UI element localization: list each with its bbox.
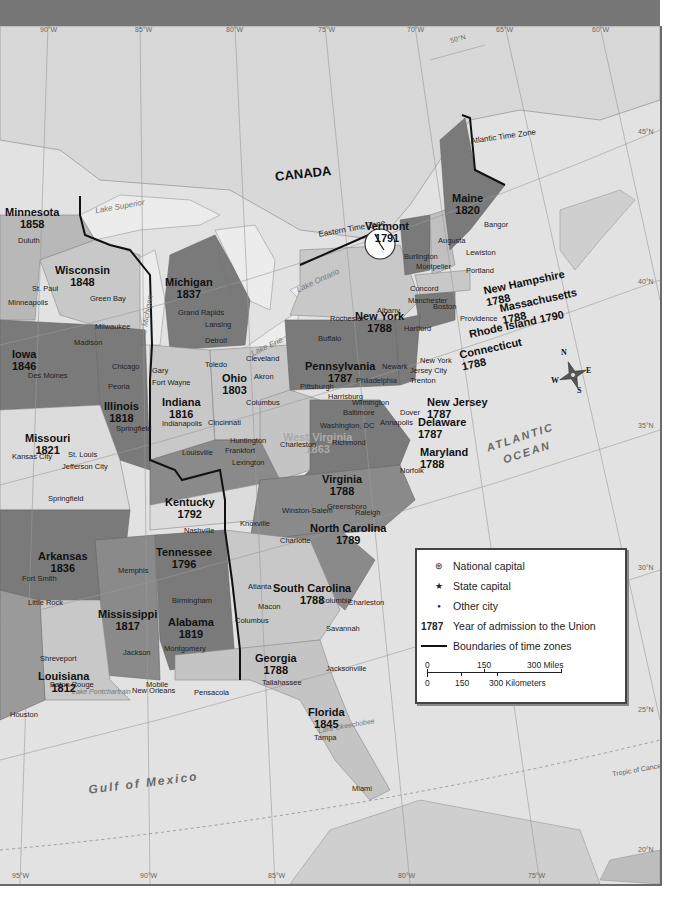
city-label: Jacksonville [326,664,366,673]
city-label: Concord [410,284,438,293]
map-header-bar [0,0,660,26]
grid-lon-bottom: 85°W [268,872,285,879]
state-label: Michigan1837 [165,276,213,300]
legend-label: Year of admission to the Union [453,620,596,632]
city-label: Trenton [410,376,436,385]
grid-lon-top: 85°W [135,26,152,33]
national-capital-icon: ⊛ [425,561,453,571]
scale-bar: 0 150 300 Miles 0 150 300 Kilometers [427,660,607,696]
city-label: Springfield [48,494,83,503]
compass-n: N [561,348,567,357]
city-label: Little Rock [28,598,63,607]
city-label: Green Bay [90,294,126,303]
city-label: Macon [258,602,281,611]
admission-year-sample: 1787 [421,621,453,632]
compass-w: W [551,376,559,385]
state-label: Tennessee1796 [156,546,212,570]
city-label: Wilmington [352,398,389,407]
grid-lon-top: 90°W [40,26,57,33]
city-label: Montpelier [416,262,451,271]
grid-lat-right: 20°N [638,846,654,853]
city-label: Hartford [404,324,431,333]
grid-lon-bottom: 80°W [398,872,415,879]
city-label: Lexington [232,458,265,467]
grid-lon-top: 60°W [592,26,609,33]
map-graphics [0,26,660,884]
city-label: Tampa [314,733,337,742]
legend-label: State capital [453,580,511,592]
compass-e: E [586,366,591,375]
city-label: Rochester [330,314,364,323]
legend-label: Boundaries of time zones [453,640,571,652]
grid-lon-top: 80°W [226,26,243,33]
city-label: Miami [352,784,372,793]
legend-label: National capital [453,560,525,572]
city-label: Grand Rapids [178,308,224,317]
grid-lon-bottom: 95°W [12,872,29,879]
city-label: Akron [254,372,274,381]
city-label: Buffalo [318,334,341,343]
city-label: Tallahassee [262,678,302,687]
city-label: Richmond [332,438,366,447]
city-label: Raleigh [355,508,380,517]
city-label: Lewiston [466,248,496,257]
city-label: Peoria [108,382,130,391]
city-label: St. Louis [68,450,97,459]
state-label: Florida1845 [308,706,345,730]
time-zone-boundary-line-icon [421,645,447,647]
city-label: Houston [10,710,38,719]
city-label: Bangor [484,220,508,229]
city-label: Charleston [348,598,384,607]
city-label: Savannah [326,624,360,633]
city-label: Columbus [246,398,280,407]
compass-s: S [577,386,581,395]
state-label: Arkansas1836 [38,550,88,574]
state-label: Maine1820 [452,192,483,216]
state-label: Minnesota1858 [5,206,59,230]
city-label: Charleston [280,440,316,449]
city-label: Milwaukee [95,322,130,331]
city-label: Memphis [118,566,148,575]
state-label: North Carolina1789 [310,522,386,546]
city-label: Cleveland [246,354,279,363]
city-label: Augusta [438,236,466,245]
city-label: Pensacola [194,688,229,697]
grid-lat-right: 35°N [638,422,654,429]
grid-lat-right: 25°N [638,706,654,713]
city-label: Winston-Salem [282,506,333,515]
city-label: Gary [152,366,168,375]
state-label: Delaware1787 [418,416,466,440]
city-label: Kansas City [12,452,52,461]
state-label: Indiana1816 [162,396,201,420]
state-label: Iowa1846 [12,348,36,372]
city-label: Shreveport [40,654,77,663]
city-label: Columbus [235,616,269,625]
city-label: Atlanta [248,582,271,591]
city-label: Indianapolis [162,419,202,428]
grid-lon-bottom: 75°W [528,872,545,879]
grid-lat-right: 30°N [638,564,654,571]
city-label: Detroit [205,336,227,345]
city-label: Duluth [18,236,40,245]
city-label: Boston [433,302,456,311]
state-label: Kentucky1792 [165,496,215,520]
city-label: Huntington [230,436,266,445]
city-label: Providence [460,314,498,323]
city-label: New York [420,356,452,365]
state-label: Mississippi1817 [98,608,157,632]
state-label: Illinois1818 [104,400,139,424]
grid-lat-right: 40°N [638,278,654,285]
map-frame: CANADA Eastern Time Zone Atlantic Time Z… [0,26,662,886]
grid-lat-right: 45°N [638,128,654,135]
city-label: Madison [74,338,102,347]
city-label: Fort Smith [22,574,57,583]
grid-lon-top: 75°W [318,26,335,33]
city-label: Des Moines [28,371,68,380]
city-label: Knoxville [240,519,270,528]
city-label: Minneapolis [8,298,48,307]
city-label: Jersey City [410,366,447,375]
city-label: Pittsburgh [300,382,334,391]
city-label: St. Paul [32,284,58,293]
city-label: Montgomery [164,644,206,653]
state-label: Virginia1788 [322,473,362,497]
